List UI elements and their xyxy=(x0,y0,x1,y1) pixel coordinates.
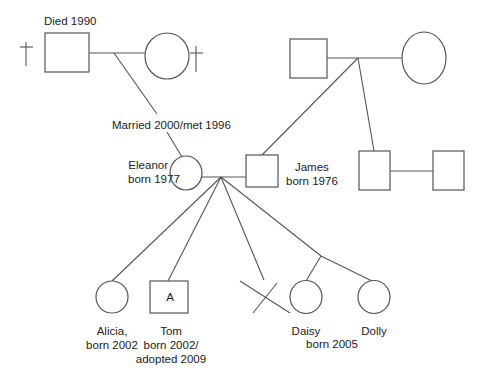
twins-born-label: born 2005 xyxy=(302,337,362,351)
descent-line-eleanor-lower xyxy=(167,132,182,157)
deceased-cross-icon xyxy=(20,42,33,66)
twin-line-dolly xyxy=(321,256,374,282)
james-name: James xyxy=(286,160,338,174)
grandmother-left-circle xyxy=(145,33,189,79)
alicia-label: Alicia, born 2002 xyxy=(82,324,142,352)
descent-line-loss xyxy=(221,177,264,280)
pregnancy-loss-x-icon xyxy=(240,281,290,313)
descent-line-james-sibling xyxy=(358,58,374,151)
james-square xyxy=(246,155,278,187)
tom-name: Tom xyxy=(135,324,207,338)
descent-line-alicia xyxy=(112,177,221,281)
marriage-label: Married 2000/met 1996 xyxy=(112,118,231,132)
alicia-born: born 2002 xyxy=(82,338,142,352)
james-label: James born 1976 xyxy=(286,160,338,188)
tom-adopted: adopted 2009 xyxy=(135,352,207,366)
grandfather-death-label: Died 1990 xyxy=(44,14,96,28)
descent-line-tom xyxy=(168,177,221,281)
dolly-label: Dolly xyxy=(354,324,394,338)
alicia-name: Alicia, xyxy=(82,324,142,338)
grandfather-right-square xyxy=(290,39,327,78)
tom-label: Tom born 2002/ adopted 2009 xyxy=(135,324,207,366)
tom-born: born 2002/ xyxy=(135,338,207,352)
descent-line-twins xyxy=(221,177,321,256)
adopted-marker: A xyxy=(163,290,177,304)
genogram-drawing xyxy=(0,0,484,378)
eleanor-born: born 1977 xyxy=(128,172,168,186)
sibling-partner-square xyxy=(433,151,464,190)
alicia-circle xyxy=(96,281,128,313)
genogram-canvas: Died 1990 Married 2000/met 1996 Eleanor … xyxy=(0,0,484,378)
james-sibling-square xyxy=(359,151,390,190)
dolly-circle xyxy=(358,281,390,314)
daisy-circle xyxy=(290,281,322,314)
james-born: born 1976 xyxy=(286,174,338,188)
twin-line-daisy xyxy=(306,256,321,281)
grandfather-left-square xyxy=(45,33,89,72)
eleanor-name: Eleanor xyxy=(128,158,168,172)
grandmother-right-circle xyxy=(402,32,446,84)
deceased-cross-icon xyxy=(190,46,203,72)
eleanor-label: Eleanor born 1977 xyxy=(128,158,168,186)
daisy-label: Daisy xyxy=(286,324,326,338)
